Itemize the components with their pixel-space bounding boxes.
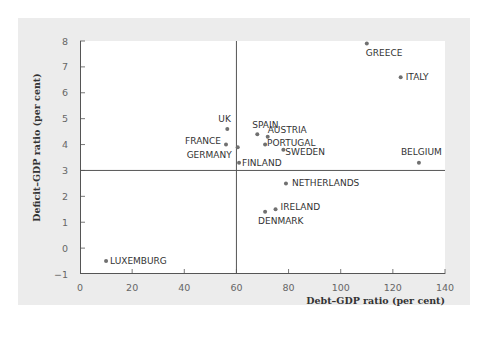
point-label-luxemburg: LUXEMBURG	[110, 256, 167, 266]
y-tick-label: 8	[62, 36, 68, 47]
y-tick-label: 2	[62, 191, 68, 202]
scatter-chart: −1012345678020406080100120140GREECEITALY…	[0, 0, 484, 339]
x-tick-label: 0	[77, 282, 83, 293]
point-label-germany: GERMANY	[187, 150, 233, 160]
point-label-finland: FINLAND	[242, 158, 282, 168]
point-label-netherlands: NETHERLANDS	[292, 178, 360, 188]
data-point-italy	[399, 75, 403, 79]
point-label-ireland: IRELAND	[281, 202, 321, 212]
y-tick-label: 4	[62, 139, 68, 150]
point-label-italy: ITALY	[406, 72, 429, 82]
x-tick-label: 80	[283, 282, 295, 293]
x-tick-label: 40	[178, 282, 190, 293]
data-point-germany	[236, 145, 240, 149]
data-point-france	[224, 143, 228, 147]
point-label-greece: GREECE	[366, 48, 403, 58]
y-tick-label: 6	[62, 87, 68, 98]
data-point-belgium	[417, 161, 421, 165]
data-point-finland	[237, 161, 241, 165]
data-point-ireland	[274, 207, 278, 211]
data-point-netherlands	[284, 181, 288, 185]
y-tick-label: 5	[62, 113, 68, 124]
point-label-austria: AUSTRIA	[268, 125, 308, 135]
y-tick-label: 0	[62, 243, 68, 254]
y-axis-title: Deficit–GDP ratio (per cent)	[31, 73, 42, 221]
point-label-sweden: SWEDEN	[285, 147, 325, 157]
point-label-belgium: BELGIUM	[401, 147, 442, 157]
data-point-spain	[255, 132, 259, 136]
x-axis-title: Debt–GDP ratio (per cent)	[306, 295, 445, 306]
y-tick-label: 1	[62, 217, 68, 228]
data-point-luxemburg	[104, 259, 108, 263]
x-tick-label: 20	[126, 282, 138, 293]
y-tick-label: 3	[62, 165, 68, 176]
y-tick-label: 7	[62, 61, 68, 72]
point-label-denmark: DENMARK	[258, 216, 305, 226]
data-point-greece	[365, 42, 369, 46]
y-tick-label: −1	[54, 269, 68, 280]
x-tick-label: 60	[230, 282, 242, 293]
x-tick-label: 140	[436, 282, 454, 293]
x-tick-label: 120	[384, 282, 402, 293]
data-point-denmark	[263, 210, 267, 214]
data-point-uk	[225, 127, 229, 131]
point-label-france: FRANCE	[185, 136, 221, 146]
point-label-uk: UK	[218, 114, 232, 124]
x-tick-label: 100	[332, 282, 350, 293]
